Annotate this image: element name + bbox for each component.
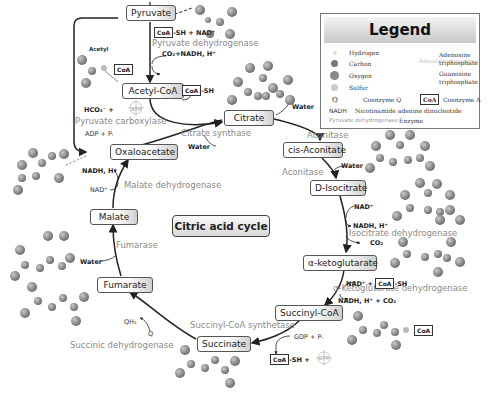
carbon-icon [331, 60, 338, 67]
coa-icon: CoA [420, 94, 439, 105]
coa-icon: CoA [270, 354, 289, 365]
molecule-succinyl-coa [347, 311, 409, 350]
molecule-oxaloacetate [13, 148, 69, 195]
legend-q: Coenzyme Q [363, 96, 401, 103]
legend-q-symbol: Q [332, 96, 338, 104]
metabolite-succinate: Succinate [197, 336, 251, 352]
water-citrate-synthase: Water [188, 143, 210, 151]
enzyme-pyruvate-carboxylase: Pyruvate carboxylase [75, 116, 167, 126]
legend-carbon: Carbon [349, 60, 371, 67]
legend-atp: Adenosine triphosphate [439, 51, 477, 67]
hco3-input: HCO₃⁻ + [84, 106, 114, 114]
gdp-input: GDP + Pᵢ [294, 333, 323, 341]
mdh-nadh: NADH, H⁺ [82, 167, 117, 175]
enzyme-malate-dehydrogenase: Malate dehydrogenase [124, 180, 221, 190]
akg-input: NAD⁺ + CoA-SH [346, 278, 407, 289]
metabolite-succinyl-coa: Succinyl-CoA [275, 305, 343, 321]
oxygen-icon [330, 71, 339, 80]
diagram-title: Citric acid cycle [172, 215, 270, 237]
metabolite-fumarate: Fumarate [97, 277, 153, 293]
enzyme-pyruvate-dehydrogenase: Pyruvate dehydrogenase [152, 38, 258, 48]
molecule-acetyl [77, 55, 107, 88]
legend-oxygen: Oxygen [349, 72, 372, 79]
enzyme-aconitase-1: Aconitase [307, 130, 349, 140]
pdh-input: CoA-SH + NAD⁺ [154, 27, 215, 38]
qh2-label: QH₂ [124, 318, 137, 326]
water-aconitate: Water [341, 162, 363, 170]
pdh-output: CO₂+NADH, H⁺ [162, 50, 216, 58]
molecule-isocitrate [392, 178, 465, 225]
hydrogen-icon [333, 51, 337, 55]
legend-hydrogen: Hydrogen [349, 49, 379, 56]
legend-title: Legend [324, 17, 476, 43]
idh-nadh: NADH, H⁺ [353, 222, 388, 230]
enzyme-fumarase: Fumarase [116, 240, 158, 250]
coa-acetyl: CoA [114, 64, 133, 75]
legend-coa-symbol: CoA [420, 94, 439, 105]
scs-output: CoA-SH + [270, 354, 310, 365]
molecule-cis-aconitate [365, 130, 435, 173]
metabolite-alpha-ketoglutarate: α-ketoglutarate [303, 255, 377, 271]
idh-co2: CO₂ [370, 239, 383, 247]
metabolite-oxaloacetate: Oxaloacetate [110, 144, 178, 160]
q-label: Q [148, 330, 153, 338]
legend-panel: Legend Hydrogen Carbon Oxygen Sulfur Ade… [320, 13, 480, 129]
enzyme-aconitase-2: Aconitase [282, 167, 324, 177]
coa-succinyl: CoA [414, 325, 433, 336]
akg-output: NADH, H⁺ + CO₂ [338, 297, 396, 305]
gtp-label: GTP [318, 355, 329, 361]
legend-gtp: Guanosine triphosphate [439, 70, 477, 86]
coa-icon: CoA [154, 27, 173, 38]
coa-icon: CoA [182, 85, 201, 96]
coa-icon: CoA [114, 64, 133, 75]
enzyme-succinic-dehydrogenase: Succinic dehydrogenase [70, 340, 173, 350]
molecule-malate [10, 231, 75, 281]
legend-nadh-symbol: NADH [329, 107, 347, 114]
metabolite-pyruvate: Pyruvate [126, 5, 176, 21]
enzyme-succinyl-coa-synthetase: Succinyl-CoA synthetase [190, 320, 295, 330]
metabolite-cis-aconitate: cis-Aconitate [283, 142, 343, 158]
legend-sulfur: Sulfur [349, 84, 368, 91]
water-fumarase: Water [80, 258, 102, 266]
acetyl-coa-release: CoA-SH [182, 85, 214, 96]
legend-enzyme: Enzyme [399, 117, 423, 124]
metabolite-citrate: Citrate [224, 110, 274, 126]
metabolite-malate: Malate [90, 209, 138, 225]
enzyme-citrate-synthase: Citrate synthase [181, 128, 251, 138]
coa-icon: CoA [414, 325, 433, 336]
sulfur-icon [331, 84, 338, 91]
legend-coa: Coenzyme A [443, 96, 481, 103]
adp-output: ADP + Pᵢ [85, 130, 113, 138]
metabolite-acetyl-coa: Acetyl-CoA [122, 83, 184, 99]
metabolite-d-isocitrate: D-Isocitrate [310, 180, 366, 196]
water-citrate: Water [292, 103, 314, 111]
molecule-akg [390, 237, 465, 277]
molecule-citrate [227, 61, 295, 105]
molecule-fumarate [20, 282, 89, 326]
legend-enzyme-example: Pyruvate dehydrogenase [329, 117, 398, 123]
mdh-nad: NAD⁺ [90, 186, 108, 194]
idh-nad: NAD⁺ [354, 203, 373, 211]
label-acetyl: Acetyl [89, 46, 108, 52]
legend-nadh: Nicotinamide adenine dinucleotide [355, 107, 462, 114]
atp-label: ATP [131, 106, 142, 112]
coa-icon: CoA [375, 278, 394, 289]
